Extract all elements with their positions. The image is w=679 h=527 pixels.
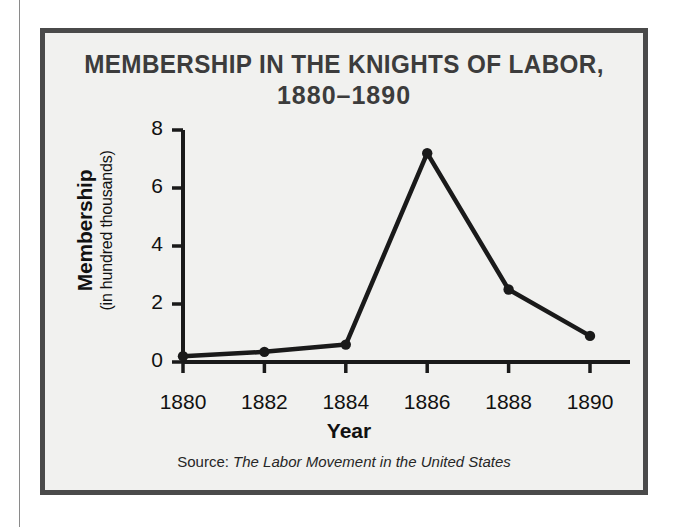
x-tick-label: 1890 <box>555 390 625 414</box>
y-tick-label: 2 <box>137 290 163 314</box>
data-point-marker <box>341 339 351 349</box>
x-tick-label: 1880 <box>148 390 218 414</box>
y-tick-label: 8 <box>137 116 163 140</box>
data-point-marker <box>422 148 432 158</box>
x-axis-title: Year <box>45 419 653 443</box>
axis-layer <box>172 130 630 373</box>
plot-area: Membership (in hundred thousands) 02468 … <box>45 33 653 500</box>
data-point-marker <box>178 351 188 361</box>
y-tick-label: 4 <box>137 232 163 256</box>
data-point-marker <box>585 331 595 341</box>
data-point-marker <box>503 284 513 294</box>
page-gutter-rule <box>19 0 20 527</box>
data-line <box>183 153 590 356</box>
y-tick-label: 6 <box>137 174 163 198</box>
x-tick-label: 1882 <box>229 390 299 414</box>
chart-figure-box: MEMBERSHIP IN THE KNIGHTS OF LABOR, 1880… <box>40 28 648 495</box>
source-title: The Labor Movement in the United States <box>233 453 511 470</box>
x-tick-label: 1886 <box>392 390 462 414</box>
x-tick-label: 1888 <box>474 390 544 414</box>
source-label: Source: <box>177 453 229 470</box>
data-point-marker <box>259 347 269 357</box>
x-tick-label: 1884 <box>311 390 381 414</box>
series-layer <box>178 148 595 361</box>
source-note: Source: The Labor Movement in the United… <box>45 453 643 470</box>
chart-figure-inner: MEMBERSHIP IN THE KNIGHTS OF LABOR, 1880… <box>45 33 643 490</box>
y-tick-label: 0 <box>137 348 163 372</box>
